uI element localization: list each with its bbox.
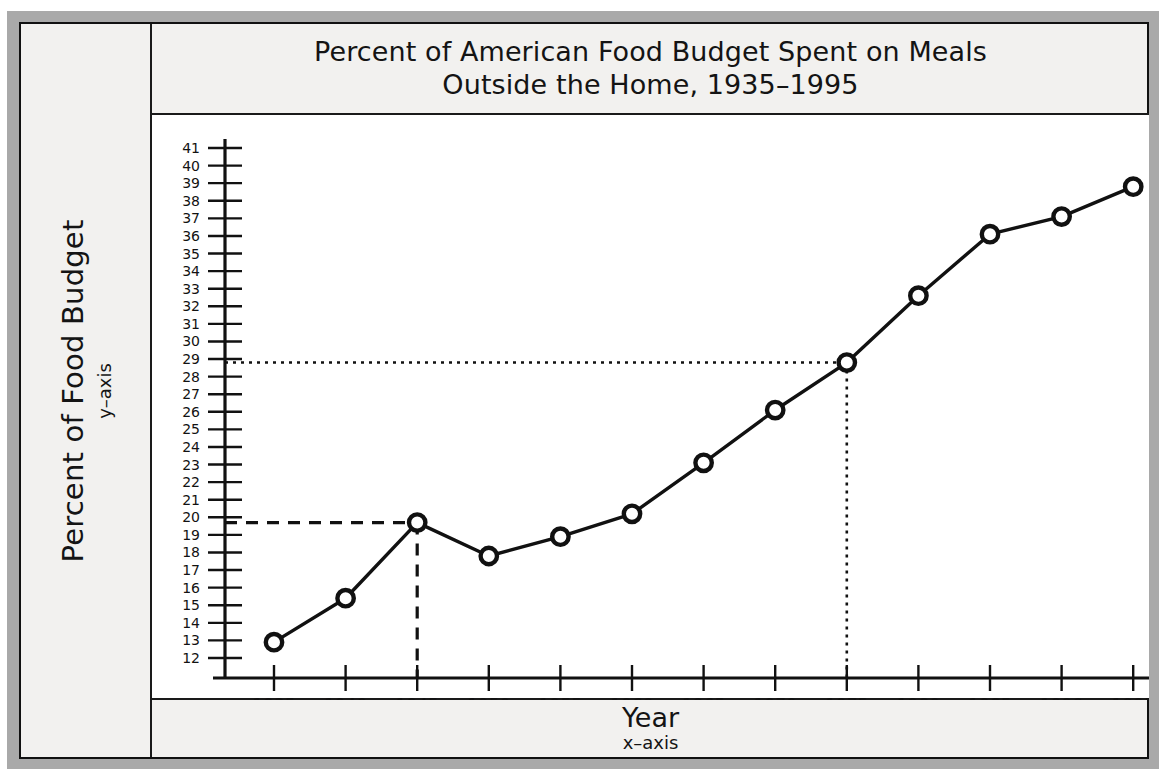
y-axis-tick-label: 12 — [182, 650, 200, 666]
y-axis-tick-label: 40 — [182, 158, 200, 174]
y-axis-tick-label: 23 — [182, 457, 200, 473]
y-axis-tick-label: 36 — [182, 228, 200, 244]
y-axis-tick-label: 26 — [182, 404, 200, 420]
y-axis-tick-label: 32 — [182, 298, 200, 314]
chart-title-panel: Percent of American Food Budget Spent on… — [152, 24, 1149, 115]
data-point-marker[interactable] — [695, 455, 711, 471]
y-axis-tick-label: 20 — [182, 509, 200, 525]
y-axis-tick-label: 37 — [182, 210, 200, 226]
y-axis-tick-label: 27 — [182, 386, 200, 402]
data-point-marker[interactable] — [409, 514, 425, 530]
line-chart-svg: 4140393837363534333231302928272625242322… — [152, 115, 1149, 700]
y-axis-tick-label: 29 — [182, 351, 200, 367]
chart-title-line2: Outside the Home, 1935–1995 — [442, 69, 858, 100]
x-axis-subtitle: x–axis — [623, 734, 679, 753]
outer-bevel-frame: Percent of Food Budget y–axis Percent of… — [7, 11, 1159, 769]
y-axis-tick-label: 34 — [182, 263, 200, 279]
y-axis-tick-label: 19 — [182, 527, 200, 543]
figure-frame: Percent of Food Budget y–axis Percent of… — [19, 22, 1149, 759]
y-axis-tick-label: 28 — [182, 369, 200, 385]
y-axis-tick-label: 33 — [182, 281, 200, 297]
chart-page: Percent of Food Budget y–axis Percent of… — [0, 0, 1172, 783]
x-axis-label-panel: Year x–axis — [152, 700, 1149, 757]
y-axis-tick-label: 22 — [182, 474, 200, 490]
y-axis-tick-label: 21 — [182, 492, 200, 508]
y-axis-tick-label: 17 — [182, 562, 200, 578]
data-point-marker[interactable] — [982, 226, 998, 242]
y-axis-tick-label: 14 — [182, 615, 200, 631]
y-axis-tick-label: 41 — [182, 140, 200, 156]
y-axis-subtitle: y–axis — [94, 219, 114, 562]
y-axis-tick-label: 13 — [182, 632, 200, 648]
data-point-marker[interactable] — [624, 506, 640, 522]
y-axis-label-panel: Percent of Food Budget y–axis — [21, 24, 152, 757]
data-point-marker[interactable] — [1125, 178, 1141, 194]
data-point-marker[interactable] — [839, 354, 855, 370]
x-axis-title: Year — [622, 704, 679, 732]
data-point-marker[interactable] — [337, 590, 353, 606]
y-axis-tick-label: 30 — [182, 333, 200, 349]
y-axis-label-rotated: Percent of Food Budget y–axis — [57, 219, 114, 562]
data-point-marker[interactable] — [266, 634, 282, 650]
y-axis-tick-label: 16 — [182, 580, 200, 596]
y-axis-tick-label: 35 — [182, 246, 200, 262]
chart-title: Percent of American Food Budget Spent on… — [304, 36, 997, 102]
y-axis-tick-label: 31 — [182, 316, 200, 332]
y-axis-title: Percent of Food Budget — [57, 219, 89, 562]
y-axis-tick-label: 39 — [182, 175, 200, 191]
data-series-line — [274, 187, 1133, 642]
data-point-marker[interactable] — [481, 548, 497, 564]
data-point-marker[interactable] — [767, 402, 783, 418]
plot-panel: 4140393837363534333231302928272625242322… — [152, 115, 1149, 700]
y-axis-tick-label: 25 — [182, 421, 200, 437]
y-axis-tick-label: 24 — [182, 439, 200, 455]
y-axis-tick-label: 15 — [182, 597, 200, 613]
data-point-marker[interactable] — [1053, 208, 1069, 224]
chart-title-line1: Percent of American Food Budget Spent on… — [314, 36, 987, 67]
y-axis-tick-label: 18 — [182, 544, 200, 560]
y-axis-tick-label: 38 — [182, 193, 200, 209]
data-point-marker[interactable] — [910, 288, 926, 304]
data-point-marker[interactable] — [552, 528, 568, 544]
